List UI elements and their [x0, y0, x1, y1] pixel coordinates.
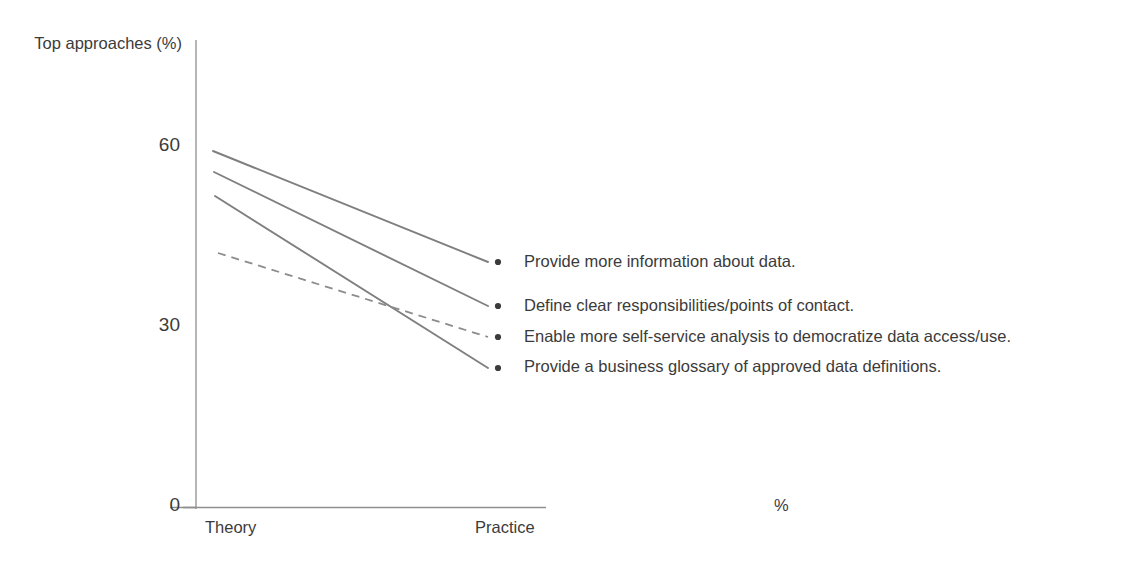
- x-axis-tick-practice: Practice: [475, 518, 535, 537]
- series-line-self-service-analysis-dashed: [218, 253, 488, 337]
- legend-bullet-1: [495, 303, 501, 309]
- legend-bullet-2: [495, 334, 501, 340]
- y-axis-tick-60: 60: [100, 134, 180, 156]
- y-axis-tick-0: 0: [100, 494, 180, 516]
- series-line-business-glossary: [215, 196, 488, 368]
- percent-unit-label: %: [774, 496, 789, 515]
- series-line-provide-more-information: [213, 151, 488, 262]
- y-axis-tick-30: 30: [100, 314, 180, 336]
- chart-canvas: Top approaches (%) 60 30 0 Theory Practi…: [0, 0, 1137, 566]
- legend-label-2: Enable more self-service analysis to dem…: [524, 327, 1011, 346]
- line-chart-plot: [0, 0, 1137, 566]
- series-line-define-clear-responsibilities: [214, 172, 488, 306]
- legend-bullet-3: [495, 365, 501, 371]
- legend-label-3: Provide a business glossary of approved …: [524, 357, 941, 376]
- y-axis-title: Top approaches (%): [30, 30, 182, 56]
- x-axis-tick-theory: Theory: [205, 518, 256, 537]
- legend-label-0: Provide more information about data.: [524, 252, 796, 271]
- legend-label-1: Define clear responsibilities/points of …: [524, 296, 854, 315]
- legend-bullet-0: [495, 259, 501, 265]
